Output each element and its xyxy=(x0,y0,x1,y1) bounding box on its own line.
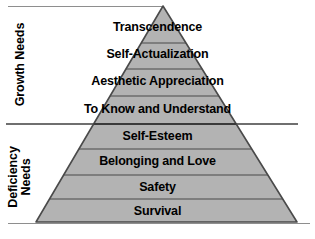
pyramid-level-5: Self-Esteem xyxy=(0,129,315,143)
pyramid-level-7: Safety xyxy=(0,180,315,194)
pyramid-diagram: Growth Needs Deficiency Needs Transcende… xyxy=(0,0,315,239)
pyramid-level-4: To Know and Understand xyxy=(0,102,315,116)
pyramid-level-2: Self-Actualization xyxy=(0,47,315,61)
pyramid-level-3: Aesthetic Appreciation xyxy=(0,74,315,88)
pyramid-level-1: Transcendence xyxy=(0,20,315,34)
pyramid-level-8: Survival xyxy=(0,204,315,218)
pyramid-level-6: Belonging and Love xyxy=(0,154,315,168)
